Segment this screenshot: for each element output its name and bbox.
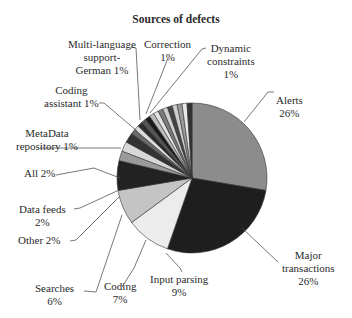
label-dynamic-constraints: Dynamic constraints 1% — [207, 42, 255, 81]
label-multi-language: Multi-language support- German 1% — [68, 38, 136, 77]
label-metadata-repository: MetaData repository 1% — [16, 127, 78, 153]
label-correction: Correction 1% — [144, 38, 191, 64]
label-input-parsing: Input parsing 9% — [150, 273, 208, 299]
label-all: All 2% — [24, 167, 55, 180]
label-major-transactions: Major transactions 26% — [282, 249, 335, 288]
pie-slice — [192, 103, 267, 190]
label-searches: Searches 6% — [35, 282, 74, 308]
label-coding-assistant: Coding assistant 1% — [44, 84, 99, 110]
label-data-feeds: Data feeds 2% — [19, 203, 66, 229]
label-alerts: Alerts 26% — [276, 94, 303, 120]
label-other: Other 2% — [18, 234, 60, 247]
label-coding: Coding 7% — [104, 280, 136, 306]
